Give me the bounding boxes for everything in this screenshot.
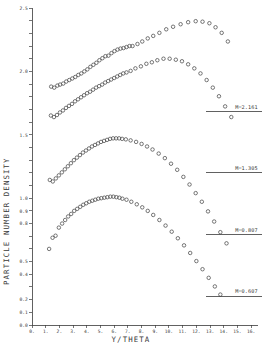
- data-point: [211, 86, 215, 90]
- data-point: [124, 138, 128, 142]
- data-point: [151, 213, 155, 217]
- data-point: [201, 267, 205, 271]
- data-point: [70, 102, 74, 106]
- data-point: [57, 174, 61, 178]
- x-tick-label: 0.: [29, 329, 35, 334]
- data-point-series-group: [47, 19, 233, 296]
- x-tick-label: 6.: [111, 329, 117, 334]
- data-point: [179, 22, 183, 26]
- data-point: [66, 165, 70, 169]
- data-point: [60, 222, 64, 226]
- y-tick-label: 0.8: [19, 221, 28, 226]
- data-point: [150, 61, 154, 65]
- data-point: [195, 259, 199, 263]
- data-point: [206, 210, 210, 214]
- data-point: [219, 230, 223, 234]
- data-point: [220, 31, 224, 35]
- data-point: [158, 218, 162, 222]
- data-point: [207, 276, 211, 280]
- data-point: [186, 20, 190, 24]
- data-point: [199, 72, 203, 76]
- data-point: [75, 156, 79, 160]
- data-point: [225, 242, 229, 246]
- data-point: [162, 57, 166, 61]
- data-point: [129, 139, 133, 143]
- data-point: [51, 180, 55, 184]
- data-point: [170, 230, 174, 234]
- series-annotation-label: M=2.161: [235, 104, 258, 110]
- data-point: [156, 58, 160, 62]
- series-annotation-label: M=0.607: [235, 288, 258, 294]
- data-point: [146, 209, 150, 213]
- data-point: [61, 109, 65, 113]
- data-point: [226, 40, 230, 44]
- data-point: [139, 65, 143, 69]
- x-tick-label: 15.: [233, 329, 241, 334]
- y-tick-label: 0.4: [19, 272, 28, 277]
- data-point: [213, 285, 217, 289]
- x-tick-label: 8.: [139, 329, 145, 334]
- scatter-plot-svg: 0.00.10.20.40.50.80.91.01.52.02.5 0.1.2.…: [0, 0, 262, 345]
- data-point: [194, 191, 198, 195]
- x-tick-label: 4.: [84, 329, 90, 334]
- x-tick-label: 12.: [192, 329, 200, 334]
- data-point: [186, 63, 190, 67]
- x-tick-label: 2.: [57, 329, 63, 334]
- data-point: [188, 251, 192, 255]
- data-point: [57, 226, 61, 230]
- data-point: [230, 115, 234, 119]
- data-point: [125, 198, 129, 202]
- data-point: [141, 40, 145, 44]
- series-1-points: [49, 19, 229, 89]
- data-point: [95, 61, 99, 65]
- x-tick-label: 7.: [125, 329, 131, 334]
- data-point: [212, 220, 216, 224]
- data-point: [214, 26, 218, 30]
- x-tick-label: 13.: [206, 329, 214, 334]
- x-axis-title: Y/THETA: [112, 335, 151, 344]
- data-point: [134, 67, 138, 71]
- data-point: [60, 171, 64, 175]
- data-point: [171, 25, 175, 29]
- data-point: [193, 67, 197, 71]
- data-point: [151, 34, 155, 38]
- data-point: [164, 224, 168, 228]
- data-point: [164, 28, 168, 32]
- data-point: [129, 69, 133, 73]
- data-point: [201, 20, 205, 24]
- data-point: [63, 218, 67, 222]
- x-axis-tick-labels: 0.1.2.3.4.5.6.7.8.9.10.11.12.13.14.15.16…: [29, 329, 255, 334]
- data-point: [136, 42, 140, 46]
- series-annotation-label: M=1.305: [235, 165, 258, 171]
- data-point: [54, 234, 58, 238]
- y-tick-label: 2.5: [19, 6, 28, 11]
- x-tick-label: 9.: [152, 329, 158, 334]
- y-tick-label: 0.2: [19, 297, 28, 302]
- data-point: [55, 113, 59, 117]
- data-point: [130, 200, 134, 204]
- data-point: [72, 158, 76, 162]
- data-point: [163, 156, 167, 160]
- series-annotations-group: M=2.161M=1.305M=0.807M=0.607: [206, 104, 262, 297]
- data-point: [86, 68, 90, 72]
- data-point: [168, 57, 172, 61]
- data-point: [208, 21, 212, 25]
- chart-figure: 0.00.10.20.40.50.80.91.01.52.02.5 0.1.2.…: [0, 0, 262, 345]
- y-tick-label: 2.0: [19, 69, 28, 74]
- data-point: [174, 58, 178, 62]
- y-tick-label: 1.5: [19, 133, 28, 138]
- data-point: [176, 237, 180, 241]
- data-point: [125, 71, 129, 75]
- data-point: [63, 168, 67, 172]
- data-point: [146, 37, 150, 41]
- data-point: [134, 140, 138, 144]
- series-4-points: [47, 195, 222, 296]
- data-point: [135, 203, 139, 207]
- y-tick-label: 0.9: [19, 209, 28, 214]
- x-tick-label: 1.: [43, 329, 49, 334]
- data-point: [200, 200, 204, 204]
- y-axis-title: PARTICLE NUMBER DENSITY: [2, 157, 11, 285]
- data-point: [182, 175, 186, 179]
- x-tick-label: 16.: [247, 329, 255, 334]
- y-tick-label: 1.0: [19, 196, 28, 201]
